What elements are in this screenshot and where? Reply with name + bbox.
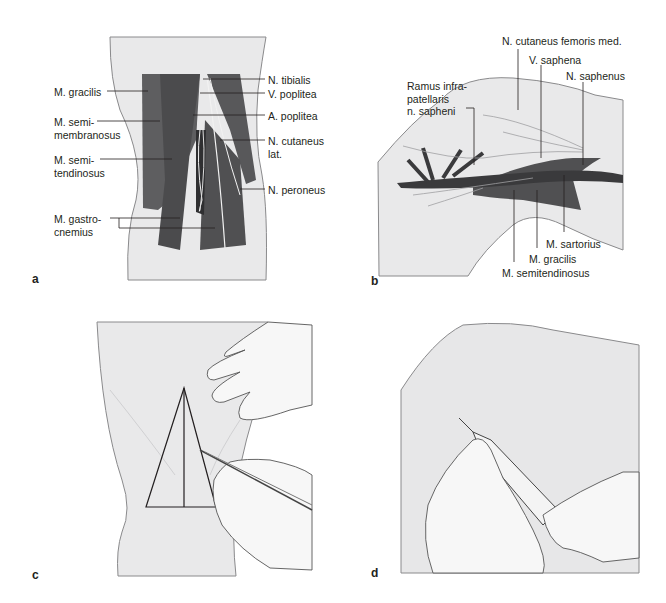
label-m-gracilis-b: M. gracilis [529,253,576,266]
label-m-semitendinosus-b: M. semitendinosus [502,267,590,280]
knee-triangle-incision-illustration [0,300,333,603]
label-n-peroneus: N. peroneus [268,184,325,197]
label-m-gastrocnemius: M. gastro- cnemius [54,213,101,238]
panel-letter-c: c [32,568,39,582]
panel-letter-d: d [371,566,378,580]
label-m-gracilis: M. gracilis [54,86,101,99]
label-v-saphena: V. saphena [529,54,581,67]
label-n-saphenus: N. saphenus [566,70,625,83]
panel-letter-a: a [32,272,39,286]
label-n-cutaneus-lat: N. cutaneus lat. [268,135,324,160]
panel-b-saphenous-anatomy: Ramus infra- patellaris n. sapheni N. cu… [333,0,666,300]
label-a-poplitea: A. poplitea [268,110,318,123]
panel-d-injection: d [333,300,666,603]
panel-letter-b: b [371,274,378,288]
label-ramus-infrapatellaris: Ramus infra- patellaris n. sapheni [407,80,467,118]
label-m-sartorius: M. sartorius [546,238,601,251]
label-m-semimembranosus: M. semi- membranosus [54,116,121,141]
label-n-tibialis: N. tibialis [268,74,311,87]
label-v-poplitea: V. poplitea [268,88,317,101]
syringe-injection-illustration [333,300,666,603]
label-m-semitendinosus: M. semi- tendinosus [54,154,105,179]
label-n-cutaneus-femoris-med: N. cutaneus femoris med. [502,35,622,48]
panel-c-incision-marking: c [0,300,333,603]
panel-a-popliteal-anatomy: M. gracilis M. semi- membranosus M. semi… [0,0,333,300]
